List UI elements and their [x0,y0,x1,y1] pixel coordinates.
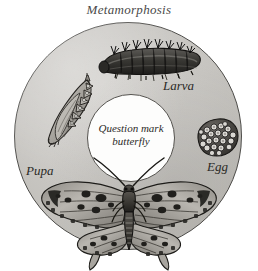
center-caption-line-2: butterfly [87,135,175,148]
metamorphosis-diagram: Metamorphosis [0,0,258,271]
stage-label-larva: Larva [163,78,194,94]
center-caption: Question mark butterfly [87,122,175,148]
butterfly-icon [38,160,220,271]
egg-cluster-icon [193,116,241,160]
center-caption-line-1: Question mark [98,122,163,134]
page-title: Metamorphosis [0,2,258,17]
caterpillar-icon [96,33,206,81]
